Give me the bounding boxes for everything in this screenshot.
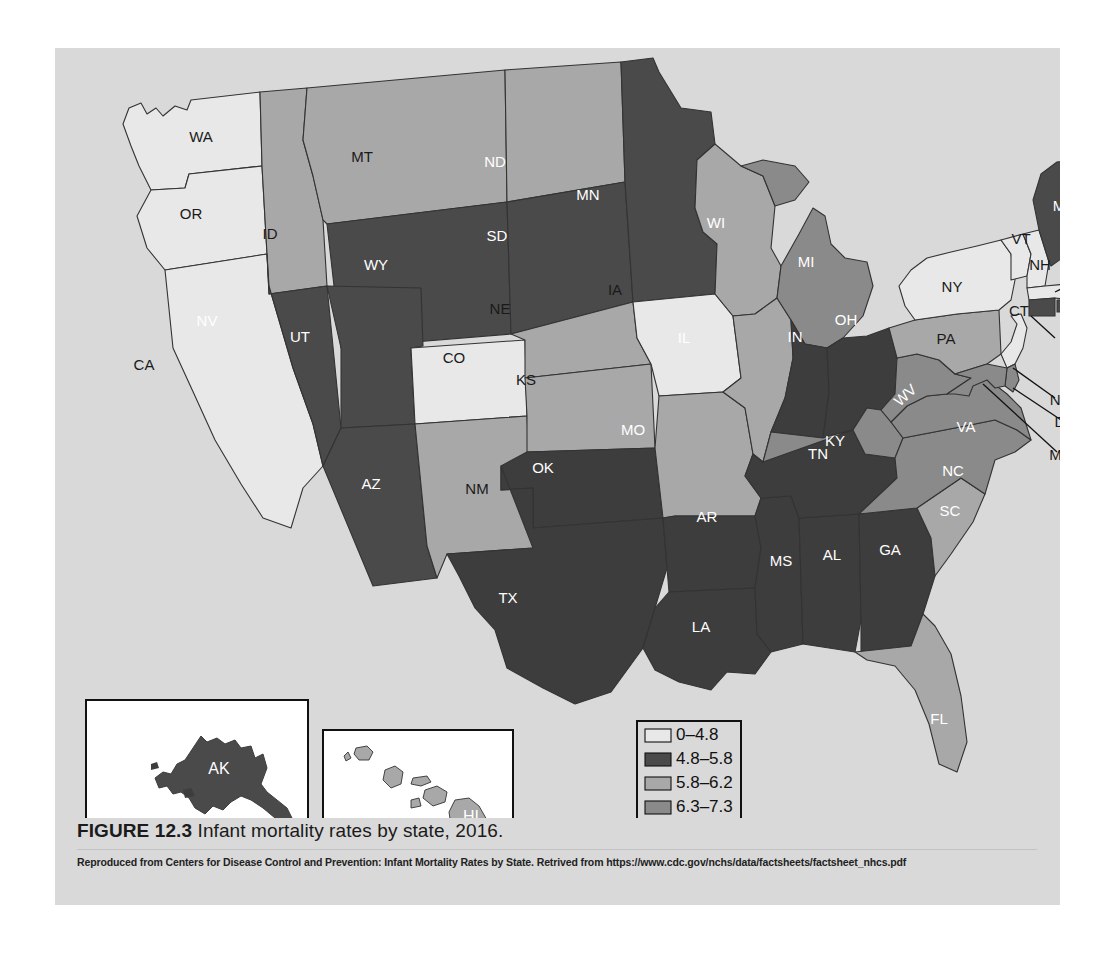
state-label-TN: TN [808,445,828,462]
state-KS[interactable] [525,364,655,452]
state-label-AL: AL [823,546,841,563]
state-NJ[interactable] [1001,314,1027,368]
legend-swatch-0 [645,729,671,742]
map-legend: 0–4.8 4.8–5.8 5.8–6.2 6.3–7.3 7.4–9.1 [637,721,741,818]
state-label-NC: NC [942,462,964,479]
leader-line-NJ [1013,368,1055,398]
state-label-FL: FL [930,710,948,727]
state-MT[interactable] [303,70,507,224]
state-label-MN: MN [576,186,599,203]
state-label-NE: NE [490,300,511,317]
state-label-TX: TX [498,589,517,606]
state-label-WI: WI [707,214,725,231]
state-label-CA: CA [134,356,155,373]
figure-source: Reproduced from Centers for Disease Cont… [77,856,1042,868]
state-label-CT: CT [1009,302,1029,319]
state-label-OH: OH [835,311,858,328]
state-AL[interactable] [799,514,861,652]
alaska-inset: AK [86,700,308,818]
state-UT[interactable] [327,286,423,428]
state-label-IA: IA [608,281,622,298]
caption-divider [77,849,1037,850]
inset-label-AK: AK [208,760,230,777]
state-label-NV: NV [197,312,218,329]
state-ND[interactable] [505,62,625,202]
figure-title: Infant mortality rates by state, 2016. [198,820,504,841]
state-label-MO: MO [621,421,645,438]
state-label-OR: OR [180,205,203,222]
state-label-MT: MT [351,148,373,165]
us-map-svg: WA OR CA ID NV MT WY UT AZ CO NM ND SD N… [55,48,1060,818]
state-CT[interactable] [1029,298,1055,316]
state-label-VT: VT [1011,230,1030,247]
state-label-GA: GA [879,541,901,558]
state-label-WA: WA [189,128,213,145]
legend-label-2: 5.8–6.2 [676,773,733,792]
state-label-ID: ID [263,225,278,242]
state-label-LA: LA [692,618,710,635]
state-label-SD: SD [487,227,508,244]
legend-label-3: 6.3–7.3 [676,797,733,816]
state-label-DE: DE [1055,413,1060,430]
state-AR[interactable] [663,516,761,592]
legend-swatch-2 [645,777,671,790]
state-label-PA: PA [937,330,956,347]
state-label-MI: MI [798,253,815,270]
state-label-NY: NY [942,278,963,295]
state-MS[interactable] [755,496,803,652]
state-label-AR: AR [697,508,718,525]
figure-caption: FIGURE 12.3 Infant mortality rates by st… [77,820,1042,868]
state-label-IL: IL [678,329,691,346]
state-LA[interactable] [643,588,771,690]
state-label-UT: UT [290,328,310,345]
caption-title-line: FIGURE 12.3 Infant mortality rates by st… [77,820,1042,842]
hawaii-inset: HI [323,730,513,818]
state-label-NH: NH [1029,256,1051,273]
state-CO[interactable] [411,340,527,424]
state-label-OK: OK [532,459,554,476]
figure-number: FIGURE 12.3 [77,820,192,841]
state-label-WY: WY [364,256,388,273]
state-label-AZ: AZ [361,475,380,492]
state-label-MD: MD [1049,446,1060,463]
legend-swatch-1 [645,753,671,766]
state-label-CO: CO [443,349,466,366]
state-label-VA: VA [957,418,976,435]
leader-line-CT [1031,316,1055,338]
state-label-ND: ND [484,153,506,170]
state-label-SC: SC [940,502,961,519]
state-label-KS: KS [516,371,536,388]
state-label-MS: MS [770,552,793,569]
state-RI[interactable] [1057,300,1060,312]
figure-panel: WA OR CA ID NV MT WY UT AZ CO NM ND SD N… [55,48,1060,905]
state-label-ME: ME [1053,197,1060,214]
legend-label-0: 0–4.8 [676,725,719,744]
choropleth-map: WA OR CA ID NV MT WY UT AZ CO NM ND SD N… [55,48,1060,818]
inset-label-HI: HI [463,808,479,818]
legend-label-1: 4.8–5.8 [676,749,733,768]
legend-swatch-3 [645,801,671,814]
state-label-IN: IN [788,328,803,345]
state-label-NM: NM [465,480,488,497]
state-label-NJ: NJ [1050,391,1060,408]
